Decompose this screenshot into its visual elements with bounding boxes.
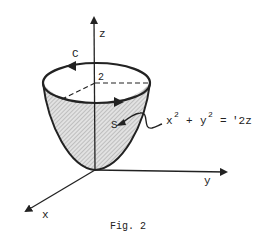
y-axis-label: y [204, 175, 211, 187]
surface-s-shaded [43, 83, 150, 170]
equation-equals: = [220, 115, 227, 127]
dashed-radius-x [60, 83, 95, 100]
paraboloid-figure: z C 2 S y x x 2 + y 2 = '2z Fig. 2 [0, 0, 262, 242]
curve-c-label: C [72, 48, 79, 60]
height-2-label: 2 [98, 72, 104, 83]
paraboloid-equation: x 2 + y 2 = '2z [166, 110, 252, 127]
x-axis [26, 170, 95, 211]
y-axis [95, 170, 226, 172]
x-axis-label: x [42, 209, 49, 221]
equation-x-exponent: 2 [174, 110, 179, 119]
equation-rhs: '2z [232, 115, 252, 127]
equation-y-exponent: 2 [208, 110, 213, 119]
equation-y: y [200, 115, 207, 127]
equation-x: x [166, 115, 173, 127]
curve-c-arrow-back-icon [66, 61, 76, 71]
equation-plus: + [186, 115, 193, 127]
surface-s-label: S [111, 119, 118, 131]
figure-caption: Fig. 2 [110, 221, 146, 232]
z-axis-label: z [99, 28, 106, 40]
